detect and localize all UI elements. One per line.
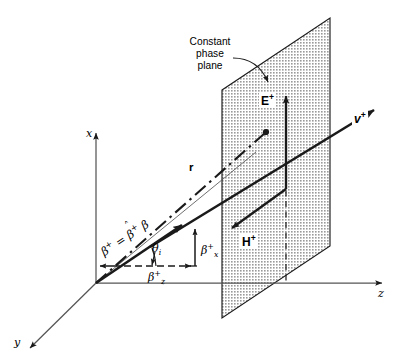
axis-label-y: y	[14, 337, 20, 348]
angle-theta-i-label: θi	[152, 243, 161, 257]
axis-y	[30, 283, 96, 348]
electric-field-label: E+	[259, 92, 276, 107]
angle-symbol: θ	[152, 242, 159, 255]
beta-z-superscript: +	[154, 269, 161, 278]
magnetic-field-superscript: +	[251, 233, 256, 243]
constant-phase-plane-callout: Constant phase plane	[182, 36, 238, 72]
callout-line-1: Constant	[182, 36, 238, 48]
velocity-symbol: v	[354, 112, 361, 126]
beta-z-component-label: β+z	[148, 270, 165, 286]
electric-field-superscript: +	[269, 92, 274, 102]
beta-z-subscript: z	[161, 277, 165, 286]
velocity-vector-label: v+	[352, 110, 368, 125]
constant-phase-plane	[222, 18, 330, 318]
axis-label-z: z	[378, 288, 384, 299]
beta-x-component	[186, 229, 197, 266]
callout-line-2: phase	[182, 48, 238, 60]
callout-line-3: plane	[182, 60, 238, 72]
velocity-superscript: +	[361, 110, 366, 120]
figure-canvas: Constant phase plane x z y r E+ H+ v+ β+…	[0, 0, 402, 364]
position-vector-label: r	[189, 162, 194, 174]
beta-x-component-label: β+x	[201, 243, 218, 259]
angle-subscript: i	[159, 248, 161, 257]
magnetic-field-label: H+	[240, 233, 258, 248]
beta-x-subscript: x	[214, 250, 218, 259]
axis-label-x: x	[86, 128, 92, 139]
magnetic-field-symbol: H	[242, 235, 251, 249]
electric-field-symbol: E	[261, 94, 269, 108]
beta-x-superscript: +	[207, 242, 214, 251]
